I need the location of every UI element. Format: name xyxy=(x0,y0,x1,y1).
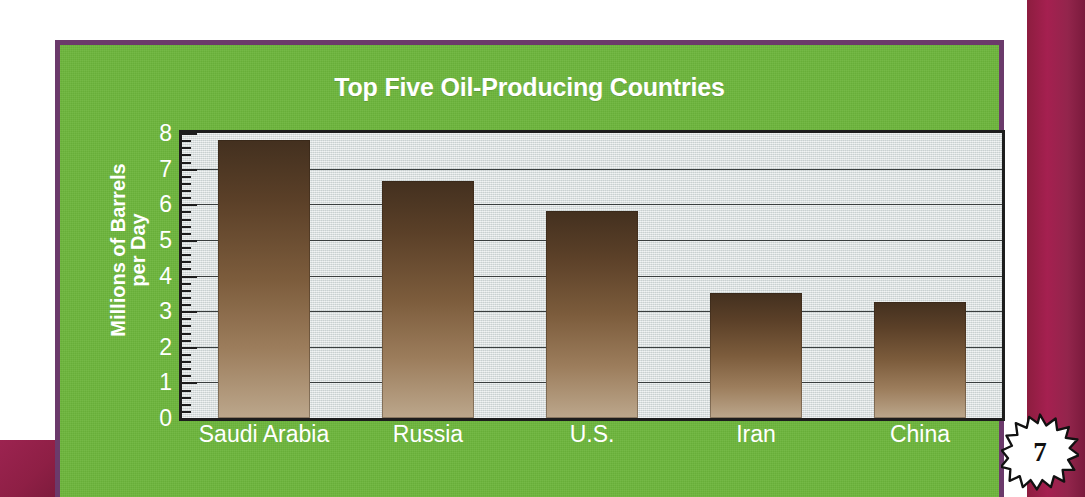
y-axis-title-line-1: Millions of Barrels xyxy=(108,163,128,336)
x-tick-label: Saudi Arabia xyxy=(199,421,329,448)
x-tick-label: Iran xyxy=(736,421,776,448)
tick-mark-major xyxy=(182,418,197,420)
y-tick-label: 6 xyxy=(159,193,172,216)
page-canvas: Top Five Oil-Producing Countries Million… xyxy=(0,0,1085,497)
bottom-left-accent-block xyxy=(0,440,57,497)
chart-title: Top Five Oil-Producing Countries xyxy=(60,73,999,102)
y-tick-label: 4 xyxy=(159,264,172,287)
page-number-text: 7 xyxy=(1001,413,1079,491)
x-axis-category-labels: Saudi ArabiaRussiaU.S.IranChina xyxy=(179,421,1005,457)
y-tick-label: 8 xyxy=(159,122,172,145)
y-tick-label: 2 xyxy=(159,335,172,358)
bar xyxy=(710,293,802,418)
y-axis-tick-labels: 012345678 xyxy=(136,130,172,415)
x-tick-label: Russia xyxy=(393,421,463,448)
y-tick-label: 5 xyxy=(159,228,172,251)
bar xyxy=(382,181,474,418)
plot-area xyxy=(179,130,1005,421)
y-tick-label: 7 xyxy=(159,157,172,180)
y-tick-label: 0 xyxy=(159,407,172,430)
bar xyxy=(218,140,310,418)
x-tick-label: China xyxy=(890,421,950,448)
bar xyxy=(546,211,638,418)
x-tick-label: U.S. xyxy=(570,421,615,448)
bar-series xyxy=(182,133,1002,418)
chart-panel: Top Five Oil-Producing Countries Million… xyxy=(55,40,1004,497)
y-tick-label: 1 xyxy=(159,371,172,394)
page-number-starburst: 7 xyxy=(1001,413,1079,491)
y-tick-label: 3 xyxy=(159,300,172,323)
bar xyxy=(874,302,966,418)
